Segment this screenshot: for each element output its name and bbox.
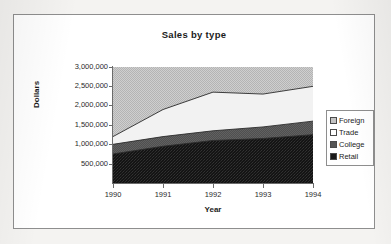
x-tick-label-1993: 1993 [243, 190, 283, 199]
x-tick-label-1994: 1994 [293, 190, 333, 199]
chart-object-frame[interactable]: Sales by type 3,000,000 2,500,000 2,000,… [13, 14, 375, 229]
x-axis-tick [313, 184, 314, 188]
chart-legend[interactable]: Foreign Trade College Retail [326, 110, 374, 166]
y-tick-label-2500000: 2,500,000 [52, 82, 108, 90]
legend-swatch-college-icon [330, 141, 337, 148]
legend-item-foreign[interactable]: Foreign [330, 114, 371, 126]
x-axis-title: Year [113, 205, 313, 214]
legend-swatch-retail-icon [330, 153, 337, 160]
x-axis-tick [163, 184, 164, 188]
legend-label-college: College [339, 140, 364, 149]
stacked-area-plot [113, 67, 313, 183]
legend-item-trade[interactable]: Trade [330, 126, 371, 138]
y-tick-label-500000: 500,000 [52, 160, 108, 168]
y-tick-label-1000000: 1,000,000 [52, 140, 108, 148]
screenshot-page: Sales by type 3,000,000 2,500,000 2,000,… [0, 0, 391, 244]
legend-swatch-foreign-icon [330, 117, 337, 124]
x-axis-tick [263, 184, 264, 188]
x-axis-tick [213, 184, 214, 188]
x-tick-label-1992: 1992 [193, 190, 233, 199]
legend-label-foreign: Foreign [339, 116, 364, 125]
y-tick-label-1500000: 1,500,000 [52, 121, 108, 129]
plot-area [113, 67, 313, 183]
legend-label-trade: Trade [339, 128, 358, 137]
y-axis-title: Dollars [32, 81, 41, 108]
legend-swatch-trade-icon [330, 129, 337, 136]
y-tick-label-3000000: 3,000,000 [52, 63, 108, 71]
legend-label-retail: Retail [339, 152, 358, 161]
legend-item-college[interactable]: College [330, 138, 371, 150]
legend-item-retail[interactable]: Retail [330, 150, 371, 162]
y-tick-label-2000000: 2,000,000 [52, 101, 108, 109]
x-axis-tick [113, 184, 114, 188]
x-tick-label-1991: 1991 [143, 190, 183, 199]
x-tick-label-1990: 1990 [93, 190, 133, 199]
